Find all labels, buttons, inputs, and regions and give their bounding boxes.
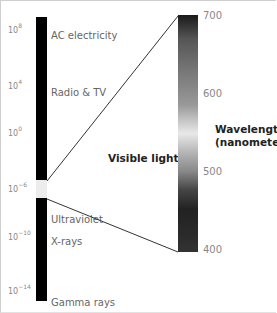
visible-wavelength-gradient-bar xyxy=(178,15,198,252)
wavelength-axis-title: Wavelength (nanometers) xyxy=(215,123,277,149)
tick-600nm: 600 xyxy=(203,88,222,99)
tick-700nm: 700 xyxy=(203,10,222,21)
tick-400nm: 400 xyxy=(203,244,222,255)
wavelength-title-line2: (nanometers) xyxy=(215,136,277,149)
visible-light-label: Visible light xyxy=(108,152,179,165)
tick-500nm: 500 xyxy=(203,166,222,177)
wavelength-title-line1: Wavelength xyxy=(215,123,277,136)
